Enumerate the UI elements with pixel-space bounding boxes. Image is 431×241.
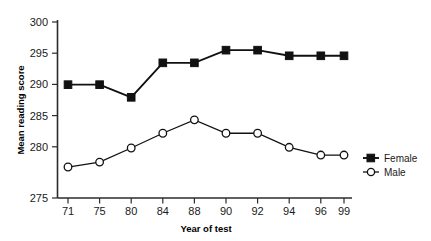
male-data-point — [191, 116, 199, 124]
legend-male-label: Male — [384, 167, 406, 178]
y-tick-label: 295 — [30, 47, 48, 59]
female-data-point — [317, 52, 325, 60]
legend-male-marker-icon — [367, 168, 374, 175]
y-tick-label: 280 — [30, 141, 48, 153]
female-data-point — [285, 52, 293, 60]
male-data-point — [127, 144, 135, 152]
male-data-point — [317, 151, 325, 159]
x-tick-label: 80 — [125, 205, 137, 217]
x-tick-label: 88 — [188, 205, 200, 217]
male-data-point — [340, 151, 348, 159]
male-data-point — [64, 163, 72, 171]
male-data-point — [254, 129, 262, 137]
y-tick-label: 290 — [30, 78, 48, 90]
y-axis-title: Mean reading score — [15, 65, 26, 154]
x-tick-label: 84 — [157, 205, 169, 217]
x-tick-label: 90 — [220, 205, 232, 217]
male-data-point — [159, 129, 167, 137]
x-tick-label: 99 — [338, 205, 350, 217]
x-tick-label: 75 — [93, 205, 105, 217]
female-data-point — [340, 52, 348, 60]
female-data-point — [254, 46, 262, 54]
x-tick-label: 71 — [62, 205, 74, 217]
female-data-point — [127, 94, 135, 102]
male-data-point — [96, 158, 104, 166]
y-tick-label: 285 — [30, 110, 48, 122]
y-tick-label: 300 — [30, 16, 48, 28]
male-data-point — [222, 129, 230, 137]
x-tick-label: 96 — [315, 205, 327, 217]
legend-female-label: Female — [384, 153, 418, 164]
male-data-point — [285, 144, 293, 152]
female-data-point — [96, 81, 104, 89]
x-tick-label: 92 — [251, 205, 263, 217]
female-data-point — [191, 59, 199, 67]
chart-canvas: 300 295 290 285 280 275 Mean reading sco… — [0, 0, 431, 241]
female-data-point — [159, 59, 167, 67]
line-chart: 300 295 290 285 280 275 Mean reading sco… — [0, 0, 431, 241]
x-axis-title: Year of test — [180, 223, 232, 234]
legend-item-female[interactable]: Female — [363, 153, 418, 164]
female-data-point — [222, 46, 230, 54]
legend-female-marker-icon — [367, 154, 375, 162]
x-tick-label: 94 — [283, 205, 295, 217]
female-data-point — [64, 81, 72, 89]
y-tick-label: 275 — [30, 192, 48, 204]
legend-item-male[interactable]: Male — [363, 167, 406, 178]
